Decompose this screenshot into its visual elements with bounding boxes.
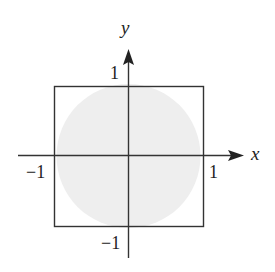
- coordinate-diagram: y x 1 −1 1 −1: [0, 0, 275, 272]
- diagram-canvas: y x 1 −1 1 −1: [0, 0, 275, 272]
- y-tick-label-neg: −1: [101, 233, 120, 253]
- x-tick-label-neg: −1: [26, 162, 45, 182]
- x-tick-label-pos: 1: [209, 162, 218, 182]
- y-axis-label: y: [119, 17, 130, 38]
- y-tick-label-pos: 1: [110, 63, 119, 83]
- x-axis-label: x: [250, 143, 260, 164]
